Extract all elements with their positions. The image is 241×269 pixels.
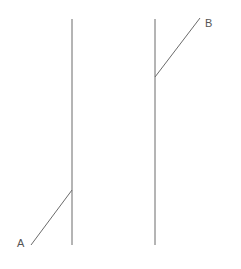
poggendorff-diagram: A B <box>0 0 241 269</box>
oblique-line-a <box>31 190 72 245</box>
label-a: A <box>17 237 25 249</box>
label-b: B <box>205 17 212 29</box>
oblique-line-b <box>155 18 200 77</box>
